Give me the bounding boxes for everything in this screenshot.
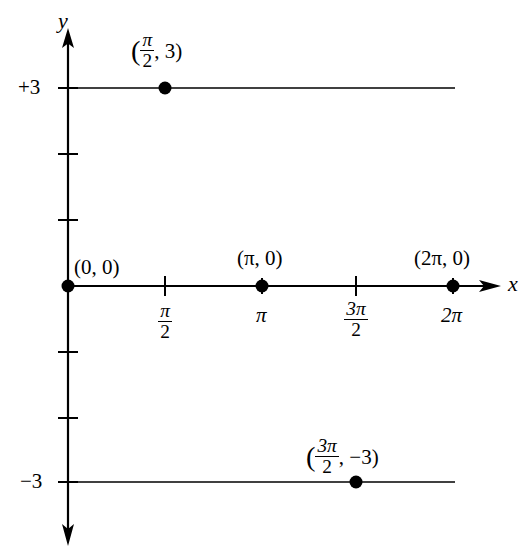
data-point-pi-zero bbox=[256, 280, 269, 293]
point-label-origin: (0, 0) bbox=[74, 257, 120, 278]
point-label-pi-zero: (π, 0) bbox=[237, 248, 283, 269]
fraction-denominator: 2 bbox=[158, 321, 172, 342]
x-tick-label-pi-over-2: π 2 bbox=[145, 302, 185, 342]
y-tick-label-plus-3: +3 bbox=[18, 77, 40, 98]
fraction-denominator: 2 bbox=[315, 456, 338, 477]
coordinate-plane-figure: y x +3 −3 π 2 π 3π 2 2π (0, 0) (π, 0) (2… bbox=[0, 0, 529, 550]
point-label-two-pi-zero: (2π, 0) bbox=[414, 248, 470, 269]
close-paren-and-y-value: , −3) bbox=[339, 447, 379, 468]
x-tick-label-pi: π bbox=[256, 305, 267, 326]
close-paren-and-y-value: , 3) bbox=[154, 41, 182, 62]
y-tick-label-minus-3: −3 bbox=[20, 471, 42, 492]
fraction-pi-over-2: π 2 bbox=[140, 30, 154, 70]
fraction-three-pi-over-2: 3π 2 bbox=[344, 299, 367, 339]
x-tick-label-two-pi: 2π bbox=[441, 305, 462, 326]
x-axis-label: x bbox=[508, 273, 518, 295]
y-axis-label: y bbox=[58, 10, 68, 32]
fraction-denominator: 2 bbox=[140, 50, 154, 71]
fraction-denominator: 2 bbox=[344, 319, 367, 340]
point-label-three-pi-over-2-neg-three: ( 3π 2 , −3) bbox=[306, 437, 379, 477]
data-point-two-pi-zero bbox=[447, 280, 460, 293]
data-point-pi-over-2-three bbox=[159, 82, 172, 95]
fraction-numerator: 3π bbox=[315, 436, 338, 456]
x-tick-label-three-pi-over-2: 3π 2 bbox=[334, 300, 378, 340]
open-paren: ( bbox=[306, 443, 315, 471]
data-point-origin bbox=[62, 280, 75, 293]
point-label-pi-over-2-three: ( π 2 , 3) bbox=[131, 31, 182, 71]
fraction-numerator: π bbox=[140, 30, 154, 50]
open-paren: ( bbox=[131, 37, 140, 65]
data-point-three-pi-over-2-neg-three bbox=[350, 476, 363, 489]
fraction-pi-over-2: π 2 bbox=[158, 301, 172, 341]
fraction-numerator: π bbox=[158, 301, 172, 321]
fraction-numerator: 3π bbox=[344, 299, 367, 319]
fraction-three-pi-over-2: 3π 2 bbox=[315, 436, 338, 476]
